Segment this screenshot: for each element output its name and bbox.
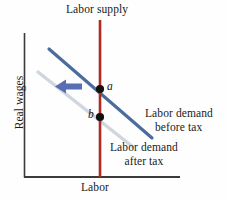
point-a-dot (96, 85, 104, 93)
chart-canvas (0, 0, 227, 200)
labor-demand-after-tax-label-line2: after tax (110, 154, 178, 168)
leftward-shift-arrow (55, 80, 82, 94)
labor-demand-before-tax-label: Labor demandbefore tax (145, 106, 213, 134)
labor-market-diagram: Labor supply Real wages Labor Labor dema… (0, 0, 227, 200)
x-axis-label: Labor (81, 181, 109, 194)
point-b-label: b (88, 108, 94, 120)
labor-demand-after-tax-label: Labor demandafter tax (110, 140, 178, 168)
point-a-label: a (107, 80, 113, 92)
labor-supply-label: Labor supply (66, 3, 128, 16)
labor-demand-before-tax-label-line1: Labor demand (145, 107, 213, 119)
point-b-dot (96, 113, 104, 121)
y-axis-label: Real wages (13, 67, 26, 139)
labor-demand-before-tax-label-line2: before tax (145, 120, 213, 134)
labor-demand-after-tax-label-line1: Labor demand (110, 141, 178, 153)
